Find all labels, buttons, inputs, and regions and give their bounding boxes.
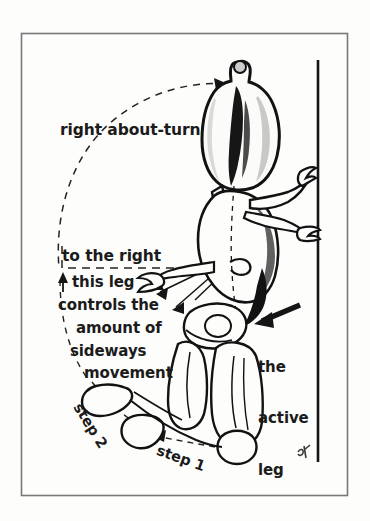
dog-muzzle-tip — [234, 61, 246, 73]
illustration-figure: right about-turn to the right this leg c… — [0, 0, 370, 521]
handler-right-hand — [298, 167, 316, 186]
label-sideways: sideways — [70, 343, 146, 360]
label-amount-of: amount of — [76, 320, 162, 337]
upward-direction-arrow — [58, 272, 68, 292]
handler-hip-detail — [205, 315, 231, 337]
foot-step-1 — [218, 431, 257, 464]
illustration-canvas — [0, 0, 370, 521]
label-active-leg-line-2: active — [258, 410, 309, 427]
label-active-leg-line-3: leg — [258, 462, 309, 479]
label-to-the-right: to the right — [62, 248, 161, 266]
handler-second-hand — [297, 227, 320, 241]
label-movement: movement — [84, 365, 173, 382]
label-the-active-leg: the active leg — [258, 325, 309, 513]
this-leg-arrowhead-b — [172, 302, 184, 314]
label-controls-the: controls the — [58, 297, 159, 314]
label-right-about-turn: right about-turn — [60, 122, 201, 140]
label-active-leg-line-1: the — [258, 359, 309, 376]
label-this-leg: this leg — [72, 274, 134, 291]
